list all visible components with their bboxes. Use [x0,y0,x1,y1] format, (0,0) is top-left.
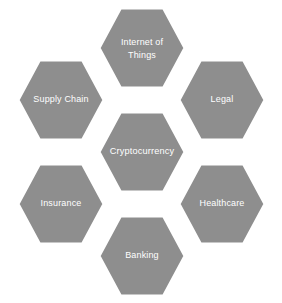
hex-label-banking: Banking [125,250,159,260]
hex-label-cryptocurrency: Cryptocurrency [110,146,175,156]
hex-cell-legal[interactable]: Legal [179,60,265,140]
hexagon-diagram-svg: Internet of Things Supply Chain Legal Cr… [0,0,282,303]
hex-label-healthcare: Healthcare [199,198,244,208]
hex-label-internet-of-things: Internet of [121,37,164,47]
hex-label-insurance: Insurance [41,198,82,208]
hex-cell-healthcare[interactable]: Healthcare [179,164,265,244]
hex-cell-cryptocurrency[interactable]: Cryptocurrency [99,112,185,192]
hex-shape-internet-of-things[interactable] [99,8,185,88]
hex-cell-insurance[interactable]: Insurance [18,164,104,244]
hexagon-diagram: Internet of Things Supply Chain Legal Cr… [0,0,282,303]
hex-label-supply-chain: Supply Chain [33,94,88,104]
hex-cell-internet-of-things[interactable]: Internet of Things [99,8,185,88]
hex-cell-supply-chain[interactable]: Supply Chain [18,60,104,140]
hex-label-internet-of-things-line2: Things [128,50,156,60]
hex-label-legal: Legal [211,94,234,104]
hex-cell-banking[interactable]: Banking [99,216,185,296]
